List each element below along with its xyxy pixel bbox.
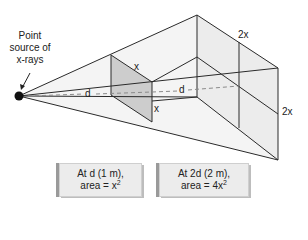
far-area-line-1: At 2d (2 m), — [160, 168, 248, 180]
far-distance-label: d — [179, 84, 185, 95]
near-area-formula: area = x — [80, 180, 116, 191]
source-label-line-1: Point — [4, 30, 56, 42]
far-area-box: At 2d (2 m), area = 4x2 — [159, 163, 249, 197]
source-label-line-2: source of — [4, 42, 56, 54]
source-label: Point source of x-rays — [4, 30, 56, 66]
far-side-right-label: 2x — [282, 106, 293, 117]
near-area-box: At d (1 m), area = x2 — [59, 163, 142, 197]
near-area-exponent: 2 — [117, 179, 121, 186]
pointer-arrowhead-icon — [20, 84, 25, 90]
point-source-dot — [15, 92, 24, 101]
source-label-line-3: x-rays — [4, 54, 56, 66]
far-area-formula: area = 4x — [181, 180, 223, 191]
near-side-top-label: x — [134, 61, 139, 72]
near-area-line-2: area = x2 — [60, 180, 141, 192]
near-area-line-1: At d (1 m), — [60, 168, 141, 180]
near-distance-label: d — [85, 88, 91, 99]
far-area-exponent: 2 — [223, 179, 227, 186]
far-side-top-label: 2x — [238, 29, 249, 40]
near-side-right-label: x — [154, 103, 159, 114]
far-area-line-2: area = 4x2 — [160, 180, 248, 192]
